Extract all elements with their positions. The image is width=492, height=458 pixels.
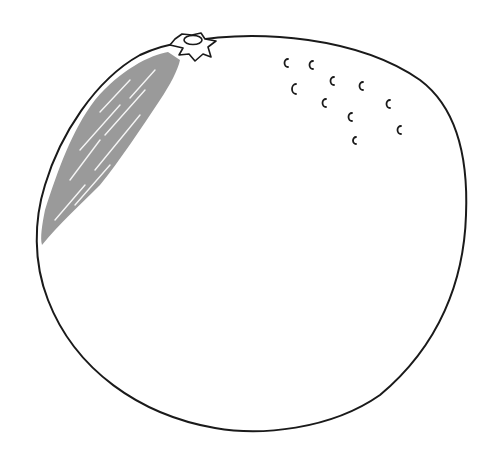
orange-drawing [0,0,492,458]
highlight-shading [41,52,180,245]
pore-marks [285,59,401,144]
stem-icon [170,33,216,61]
